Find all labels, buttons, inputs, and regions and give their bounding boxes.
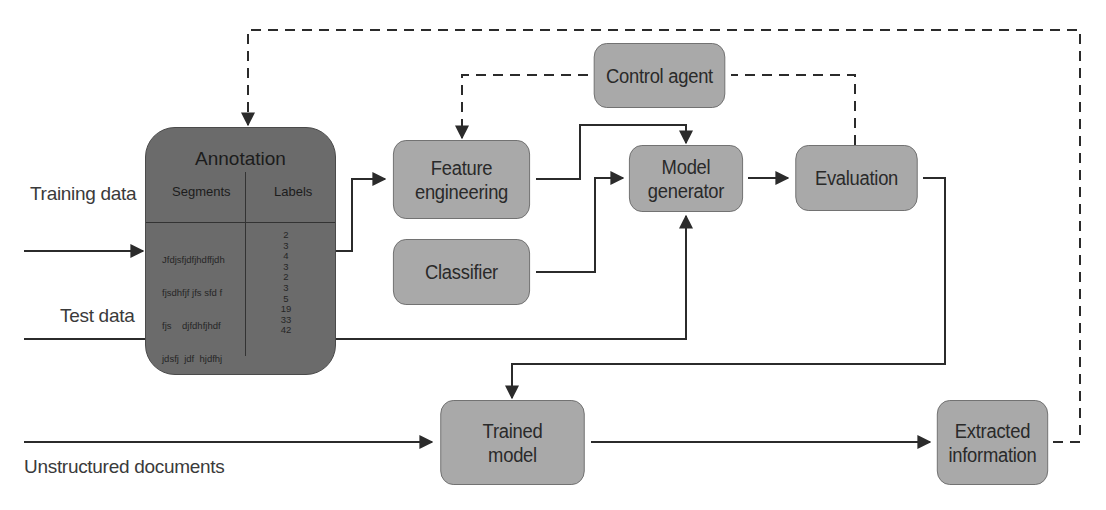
training-data-label: Training data — [30, 183, 136, 205]
control-agent-label: Control agent — [606, 64, 713, 88]
extracted-information-label: Extracted information — [948, 419, 1036, 467]
evaluation-label: Evaluation — [815, 166, 898, 190]
classifier-node: Classifier — [393, 239, 530, 305]
model-generator-node: Model generator — [629, 145, 743, 212]
segment-row: fjs djfdhfjhdf — [162, 320, 227, 331]
annotation-node: Annotation Segments Labels Jfdjsfjdfjhdf… — [145, 127, 336, 375]
annotation-column-divider — [245, 172, 246, 356]
annotation-header-divider — [146, 222, 335, 223]
segments-header: Segments — [172, 184, 231, 199]
trained-model-node: Trained model — [440, 400, 584, 485]
unstructured-documents-label: Unstructured documents — [24, 456, 224, 478]
control-to-feature-dashed — [462, 75, 588, 138]
label-value: 3 — [266, 283, 306, 294]
trained-model-label: Trained model — [483, 419, 543, 467]
classifier-label: Classifier — [425, 260, 498, 284]
control-agent-node: Control agent — [594, 43, 726, 108]
labels-list: 2 3 4 3 2 3 5 19 33 42 — [266, 230, 306, 336]
segments-list: Jfdjsfjdfjhdffjdh fjsdhfjf jfs sfd f fjs… — [162, 232, 227, 375]
feature-engineering-label: Feature engineering — [415, 156, 508, 204]
feature-engineering-node: Feature engineering — [393, 140, 530, 219]
segment-row: jdsfj jdf hjdfhj — [162, 353, 227, 364]
labels-header: Labels — [274, 184, 312, 199]
classifier-to-model-arrow — [536, 178, 623, 272]
segment-row: fjsdhfjf jfs sfd f — [162, 287, 227, 298]
extracted-information-node: Extracted information — [937, 400, 1048, 485]
evaluation-to-control-dashed — [731, 75, 855, 145]
evaluation-node: Evaluation — [795, 145, 917, 211]
label-value: 42 — [266, 325, 306, 336]
annotation-to-feature-arrow — [336, 179, 385, 251]
model-generator-label: Model generator — [648, 155, 724, 203]
test-data-label: Test data — [60, 305, 134, 327]
segment-row: Jfdjsfjdfjhdffjdh — [162, 254, 227, 265]
label-value: 2 — [266, 230, 306, 241]
annotation-title: Annotation — [146, 148, 335, 170]
